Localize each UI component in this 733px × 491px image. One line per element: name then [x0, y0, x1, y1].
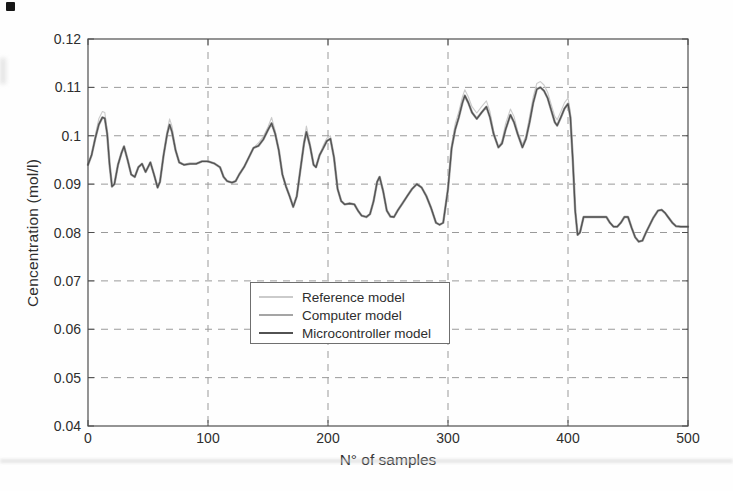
- scan-artifact-left-smudge: [0, 58, 6, 84]
- chart-canvas: 01002003004005000.120.110.10.090.080.070…: [0, 0, 733, 491]
- legend-label-computer: Computer model: [302, 308, 402, 323]
- scan-artifact-bottom-streak: [0, 459, 733, 463]
- y-tick-label: 0.12: [54, 31, 81, 47]
- y-tick-label: 0.07: [54, 273, 81, 289]
- y-tick-label: 0.1: [62, 128, 82, 144]
- legend-line-sample-microcontroller: [259, 332, 293, 334]
- x-tick-label: 400: [556, 430, 580, 446]
- legend-label-microcontroller: Microcontroller model: [302, 326, 431, 341]
- x-tick-label: 500: [676, 430, 700, 446]
- y-axis-title: Cencentration (mol/l): [24, 159, 42, 307]
- legend-item-computer-model: Computer model: [251, 306, 449, 324]
- legend-label-reference: Reference model: [302, 290, 405, 305]
- y-tick-label: 0.04: [54, 418, 81, 434]
- y-tick-label: 0.09: [54, 176, 81, 192]
- y-tick-label: 0.08: [54, 225, 81, 241]
- legend-line-sample-reference: [259, 296, 293, 298]
- legend-item-reference-model: Reference model: [251, 288, 449, 306]
- y-tick-label: 0.06: [54, 321, 81, 337]
- legend-line-sample-computer: [259, 314, 293, 316]
- x-tick-label: 300: [436, 430, 460, 446]
- x-tick-label: 100: [196, 430, 220, 446]
- legend-item-microcontroller-model: Microcontroller model: [251, 324, 449, 342]
- legend: Reference model Computer model Microcont…: [250, 282, 450, 344]
- y-tick-label: 0.11: [55, 79, 81, 95]
- series-line-computer-model: [88, 87, 688, 241]
- x-tick-label: 200: [316, 430, 340, 446]
- figure: 01002003004005000.120.110.10.090.080.070…: [0, 0, 733, 491]
- x-tick-label: 0: [84, 430, 92, 446]
- y-tick-label: 0.05: [54, 370, 81, 386]
- scan-artifact-corner-mark: [6, 2, 15, 11]
- series-line-microcontroller-model: [88, 87, 688, 241]
